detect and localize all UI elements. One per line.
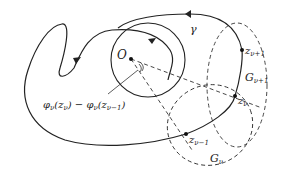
g-cur-label: Gν: [210, 152, 224, 166]
arrow-icon: [148, 38, 156, 44]
angle-label-leader: [108, 70, 138, 94]
diagram-canvas: O γ zν+1 zν zν−1 Gν+1 Gν φν(zν) − φν(zν−…: [0, 0, 289, 183]
z-cur-label: zν: [237, 95, 248, 108]
arrow-icon: [185, 10, 191, 18]
origin-label: O: [117, 48, 127, 62]
z-prev-label: zν−1: [188, 134, 209, 147]
region-g-next: [207, 23, 267, 147]
gamma-label: γ: [190, 23, 197, 36]
curve-gamma: [25, 24, 186, 145]
arrow-icon: [73, 57, 81, 64]
origin-point: [129, 57, 133, 61]
point-z-prev: [184, 132, 188, 136]
angle-label: φν(zν) − φν(zν−1): [43, 99, 125, 112]
curve-gamma-right: [118, 14, 242, 134]
point-z-cur: [233, 94, 237, 98]
g-next-label: Gν+1: [245, 71, 268, 85]
z-next-label: zν+1: [244, 45, 265, 58]
point-z-next: [240, 48, 244, 52]
